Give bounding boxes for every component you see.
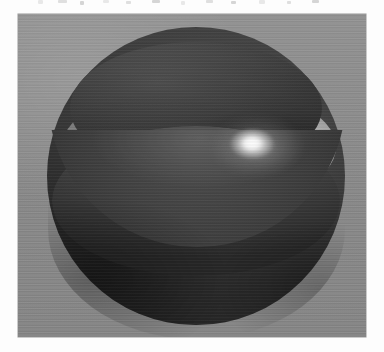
scan-artifact-mark bbox=[103, 0, 109, 3]
scan-artifact-mark bbox=[38, 0, 43, 4]
rendered-object bbox=[18, 14, 366, 337]
scan-artifact-mark bbox=[80, 1, 84, 5]
scan-artifact-mark bbox=[231, 1, 236, 4]
scan-artifact-mark bbox=[58, 0, 67, 3]
scan-artifact-mark bbox=[126, 1, 131, 4]
scan-artifact-mark bbox=[152, 0, 160, 3]
scan-artifact-mark bbox=[259, 0, 265, 4]
image-panel bbox=[18, 14, 366, 337]
figure-caption bbox=[0, 0, 1, 1]
scan-artifact-mark bbox=[287, 1, 291, 4]
scan-artifact-mark bbox=[206, 0, 213, 3]
scan-artifact-mark bbox=[181, 1, 185, 5]
scanned-page bbox=[0, 0, 384, 352]
scan-artifact-row bbox=[0, 0, 384, 12]
scan-artifact-mark bbox=[312, 0, 319, 3]
